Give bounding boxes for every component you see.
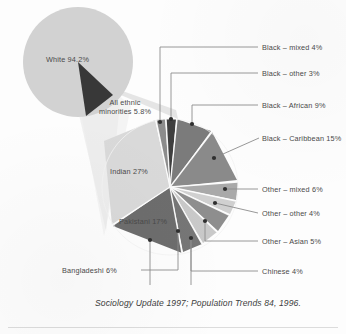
footer-rule [8, 327, 338, 328]
figure-ethnic-minorities-pie: White 94.2% All ethnic minorities 5.8% I… [0, 0, 346, 334]
dot-black-other [169, 117, 173, 121]
dot-other-other [213, 201, 217, 205]
label-black-other: Black – other 3% [262, 69, 320, 78]
label-white: White 94.2% [46, 55, 89, 64]
label-other-mixed: Other – mixed 6% [262, 185, 323, 194]
dot-other-asian [203, 219, 207, 223]
dot-black-african [190, 122, 194, 126]
label-all-minorities-line1: All ethnic [109, 98, 140, 107]
label-pakistani: Pakistani 17% [119, 217, 167, 226]
dot-other-mixed [223, 187, 227, 191]
label-other-other: Other – other 4% [262, 209, 320, 218]
dot-pakistani [148, 238, 152, 242]
label-all-minorities: All ethnic minorities 5.8% [94, 98, 156, 116]
label-other-asian: Other – Asian 5% [262, 237, 321, 246]
label-bangladeshi: Bangladeshi 6% [62, 266, 117, 275]
label-chinese: Chinese 4% [262, 267, 303, 276]
label-black-caribbean: Black – Caribbean 15% [262, 134, 341, 143]
dot-chinese [189, 236, 193, 240]
label-indian: Indian 27% [110, 167, 148, 176]
label-black-mixed: Black – mixed 4% [262, 43, 322, 52]
dot-black-caribbean [212, 156, 216, 160]
dot-bangladeshi [176, 229, 180, 233]
source-caption: Sociology Update 1997; Population Trends… [95, 298, 301, 308]
dot-black-mixed [158, 120, 162, 124]
detail-pie [102, 119, 238, 255]
label-all-minorities-line2: minorities 5.8% [99, 107, 151, 116]
label-black-african: Black – African 9% [262, 101, 326, 110]
